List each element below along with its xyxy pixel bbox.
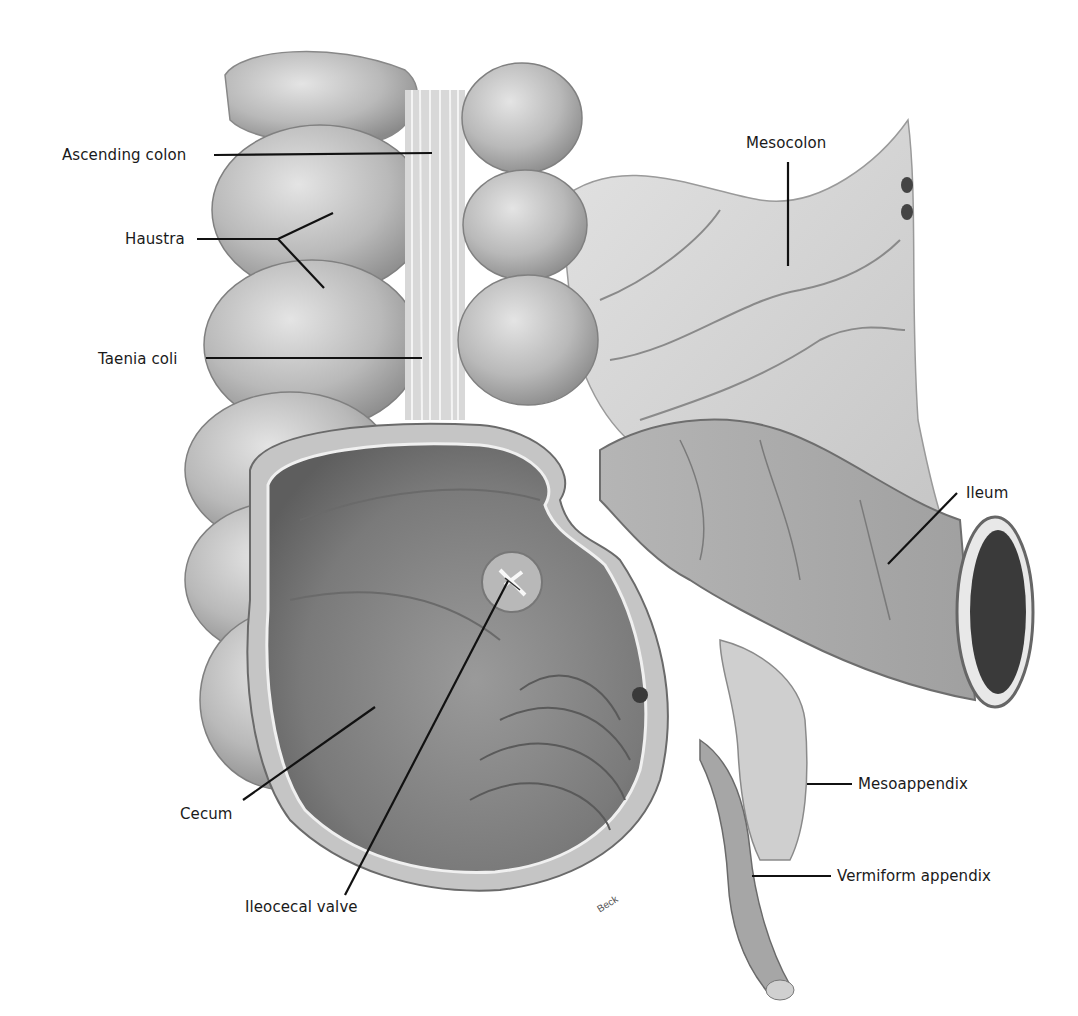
label-mesocolon: Mesocolon bbox=[746, 134, 826, 152]
label-cecum: Cecum bbox=[180, 805, 233, 823]
anatomy-figure: Ascending colon Haustra Taenia coli Meso… bbox=[0, 0, 1078, 1016]
label-taenia-coli: Taenia coli bbox=[98, 350, 178, 368]
label-haustra: Haustra bbox=[125, 230, 185, 248]
label-ileocecal-valve: Ileocecal valve bbox=[245, 898, 358, 916]
taenia-coli-band bbox=[405, 90, 465, 420]
label-ascending-colon: Ascending colon bbox=[62, 146, 186, 164]
appendix bbox=[700, 640, 807, 1000]
label-vermiform-appendix: Vermiform appendix bbox=[837, 867, 991, 885]
label-ileum: Ileum bbox=[966, 484, 1008, 502]
ileum-tube bbox=[600, 420, 1033, 707]
haustra-right bbox=[458, 63, 598, 405]
label-mesoappendix: Mesoappendix bbox=[858, 775, 968, 793]
